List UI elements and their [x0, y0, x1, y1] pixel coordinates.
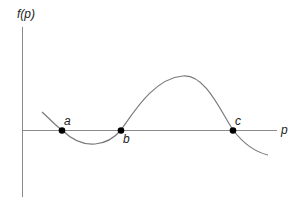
point-b-label: b — [123, 132, 130, 146]
point-a-label: a — [64, 114, 71, 128]
x-axis-label: p — [280, 123, 288, 137]
point-a — [59, 127, 66, 134]
point-c — [230, 127, 237, 134]
y-axis-label: f(p) — [17, 7, 35, 21]
function-diagram: f(p) p a b c — [0, 0, 303, 204]
point-c-label: c — [235, 114, 241, 128]
